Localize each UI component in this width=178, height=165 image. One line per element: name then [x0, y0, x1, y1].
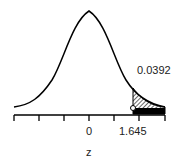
area-label: 0.0392 — [137, 64, 171, 76]
axis-ticks — [14, 115, 165, 121]
normal-curve-chart — [0, 0, 178, 165]
bell-curve — [14, 11, 165, 107]
tail-solid-band — [133, 108, 165, 114]
x-axis-label: z — [86, 146, 92, 158]
critical-point-marker — [131, 106, 136, 111]
tick-label-critical: 1.645 — [119, 125, 147, 137]
tick-label-zero: 0 — [86, 125, 92, 137]
